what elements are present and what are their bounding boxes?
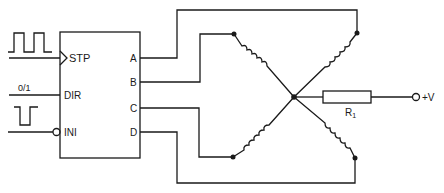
junction-dot xyxy=(231,155,236,160)
supply-terminal-icon xyxy=(413,94,420,101)
output-label-c: C xyxy=(130,103,137,114)
supply-label: +V xyxy=(422,92,435,103)
dir-signal-label: 0/1 xyxy=(18,83,31,93)
inversion-bubble-icon xyxy=(53,129,60,136)
coil-bottom-left xyxy=(233,97,294,157)
output-label-d: D xyxy=(130,127,137,138)
output-label-a: A xyxy=(130,53,137,64)
coil-top-right xyxy=(294,33,357,97)
junction-dot xyxy=(232,32,237,37)
input-label-ini: INI xyxy=(64,127,77,138)
step-pulse-waveform xyxy=(8,33,52,52)
coil-top-left xyxy=(234,34,294,97)
clock-triangle-icon xyxy=(60,51,67,65)
junction-dot xyxy=(353,156,358,161)
resistor-label: R1 xyxy=(345,107,356,119)
wire-a xyxy=(140,10,357,58)
junction-dot-center xyxy=(291,94,297,100)
init-pulse-waveform xyxy=(14,107,38,125)
junction-dot xyxy=(355,31,360,36)
resistor-r1 xyxy=(323,91,371,103)
input-label-stp: STP xyxy=(69,52,90,64)
stepper-driver-schematic: STP 0/1 DIR INI A B C D R1 +V xyxy=(0,0,444,193)
output-label-b: B xyxy=(130,77,137,88)
input-label-dir: DIR xyxy=(64,90,81,101)
wire-d xyxy=(140,132,355,183)
